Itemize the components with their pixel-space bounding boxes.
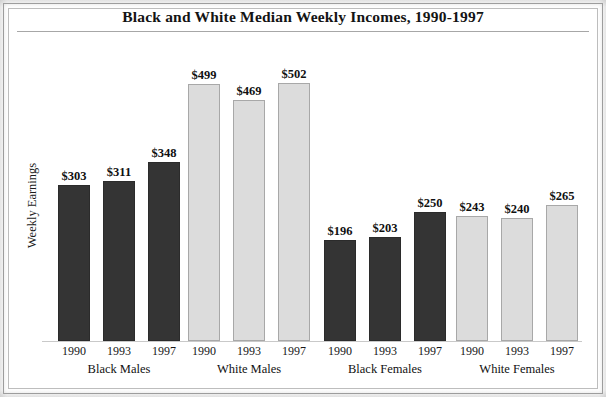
x-tick-label-white-females-1993: 1993 bbox=[495, 344, 539, 359]
x-axis-baseline bbox=[42, 341, 582, 342]
x-tick-label-black-females-1990: 1990 bbox=[318, 344, 362, 359]
bar-value-label-white-males-1997: $502 bbox=[282, 67, 307, 82]
bar-white-males-1997: $502 bbox=[278, 83, 310, 341]
y-axis-title: Weekly Earnings bbox=[25, 136, 40, 276]
chart-page: Black and White Median Weekly Incomes, 1… bbox=[0, 0, 606, 397]
bar-value-label-white-males-1993: $469 bbox=[237, 84, 262, 99]
bar-black-males-1990: $303 bbox=[58, 185, 90, 341]
plot-area: Weekly Earnings $3031990$3111993$3481997… bbox=[0, 0, 606, 397]
bar-white-females-1993: $240 bbox=[501, 218, 533, 341]
bar-black-males-1997: $348 bbox=[148, 162, 180, 341]
bar-value-label-white-females-1997: $265 bbox=[550, 189, 575, 204]
bar-value-label-white-females-1993: $240 bbox=[505, 202, 530, 217]
bar-white-males-1993: $469 bbox=[233, 100, 265, 341]
x-tick-label-white-males-1997: 1997 bbox=[272, 344, 316, 359]
bar-white-females-1990: $243 bbox=[456, 216, 488, 341]
bar-value-label-black-males-1993: $311 bbox=[107, 165, 131, 180]
bar-white-females-1997: $265 bbox=[546, 205, 578, 341]
x-tick-label-black-females-1997: 1997 bbox=[408, 344, 452, 359]
bar-white-males-1990: $499 bbox=[188, 84, 220, 341]
bar-value-label-black-males-1997: $348 bbox=[152, 146, 177, 161]
bar-value-label-black-females-1990: $196 bbox=[328, 224, 353, 239]
x-tick-label-white-males-1990: 1990 bbox=[182, 344, 226, 359]
bar-black-females-1990: $196 bbox=[324, 240, 356, 341]
bar-black-males-1993: $311 bbox=[103, 181, 135, 341]
x-tick-label-white-females-1997: 1997 bbox=[540, 344, 584, 359]
x-tick-label-black-females-1993: 1993 bbox=[363, 344, 407, 359]
bar-value-label-black-females-1993: $203 bbox=[373, 221, 398, 236]
bar-value-label-black-males-1990: $303 bbox=[62, 169, 87, 184]
bar-black-females-1997: $250 bbox=[414, 212, 446, 341]
x-tick-label-white-males-1993: 1993 bbox=[227, 344, 271, 359]
x-tick-label-black-males-1993: 1993 bbox=[97, 344, 141, 359]
x-tick-label-white-females-1990: 1990 bbox=[450, 344, 494, 359]
bar-value-label-white-females-1990: $243 bbox=[460, 200, 485, 215]
bar-black-females-1993: $203 bbox=[369, 237, 401, 341]
x-tick-label-black-males-1997: 1997 bbox=[142, 344, 186, 359]
bar-value-label-white-males-1990: $499 bbox=[192, 68, 217, 83]
bar-value-label-black-females-1997: $250 bbox=[418, 196, 443, 211]
group-label-white-females: White Females bbox=[436, 362, 598, 377]
x-tick-label-black-males-1990: 1990 bbox=[52, 344, 96, 359]
